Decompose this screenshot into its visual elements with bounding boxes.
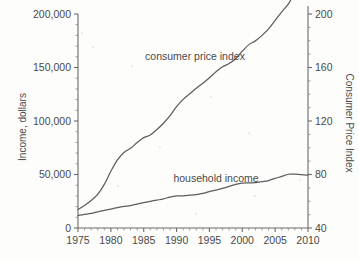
right-axis-title: Consumer Price Index	[344, 74, 355, 173]
x-axis-tick-label: 2000	[231, 234, 255, 246]
x-axis-tick-label: 1995	[198, 234, 222, 246]
right-axis-tick-label: 40	[315, 222, 327, 234]
scan-speck	[131, 65, 133, 67]
left-axis-tick-label: 150,000	[33, 61, 71, 73]
right-axis-tick-label: 200	[315, 8, 333, 20]
scan-speck	[81, 32, 83, 34]
x-axis-tick-label: 1975	[66, 234, 90, 246]
chart-figure: 050,000100,000150,000200,000 40801201602…	[0, 0, 359, 260]
x-axis-tick-label: 1985	[132, 234, 156, 246]
right-axis-tick-label: 160	[315, 61, 333, 73]
right-axis-tick-label: 120	[315, 115, 333, 127]
series-annotation-consumer-price-index: consumer price index	[145, 50, 246, 62]
scan-speck	[210, 96, 212, 98]
scan-speck	[159, 146, 161, 148]
x-axis-tick-label: 2005	[263, 234, 287, 246]
left-axis-title: Income, dollars	[17, 93, 28, 161]
left-axis-tick-label: 200,000	[33, 8, 71, 20]
chart-background	[0, 0, 359, 260]
x-axis-tick-label: 1990	[165, 234, 189, 246]
x-axis-tick-label: 2010	[296, 234, 320, 246]
left-axis-tick-label: 100,000	[33, 115, 71, 127]
scan-speck	[117, 185, 119, 187]
scan-speck	[92, 46, 94, 48]
income-vs-cpi-line-chart: 050,000100,000150,000200,000 40801201602…	[0, 0, 359, 260]
scan-speck	[254, 195, 256, 197]
series-annotation-household-income: household income	[173, 172, 258, 184]
scan-speck	[195, 213, 197, 215]
x-axis-tick-label: 1980	[99, 234, 123, 246]
left-axis-tick-label: 0	[65, 222, 71, 234]
right-axis-tick-label: 80	[315, 168, 327, 180]
scan-speck	[299, 179, 301, 181]
left-axis-tick-label: 50,000	[39, 168, 71, 180]
scan-speck	[248, 132, 250, 134]
